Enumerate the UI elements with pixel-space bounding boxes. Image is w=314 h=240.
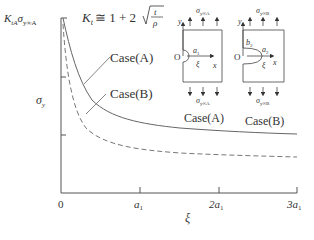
- svg-text:y: y: [237, 17, 242, 26]
- case-b-label: Case(B): [110, 86, 153, 101]
- y-axis-label: σy: [36, 93, 46, 109]
- svg-text:y: y: [177, 17, 182, 26]
- inset-case-b: σy∞B y O x ξ b2 a2 σy∞B: [234, 6, 284, 106]
- svg-text:x: x: [212, 61, 217, 70]
- svg-text:a1: a1: [193, 46, 200, 56]
- case-a-leader: [84, 57, 110, 84]
- case-a-label: Case(A): [110, 50, 153, 65]
- svg-text:ρ: ρ: [152, 18, 158, 28]
- x-tick-label-3a1: 3a1: [286, 198, 302, 212]
- x-tick-label-0: 0: [58, 198, 64, 210]
- svg-text:σy∞A: σy∞A: [196, 96, 210, 106]
- svg-text:σy∞B: σy∞B: [256, 6, 270, 16]
- svg-text:ξ: ξ: [262, 61, 266, 70]
- inset-case-a: σy∞A y O x ξ a1 σy∞A: [174, 6, 222, 106]
- stress-distribution-diagram: Case(A) Case(B) KtAσy∞A Kt≅ 1 + 2 t ρ σy…: [0, 0, 314, 240]
- x-axis-label: ξ: [185, 211, 191, 225]
- svg-text:x: x: [272, 58, 277, 67]
- svg-text:O: O: [234, 52, 241, 62]
- x-tick-label-2a1: 2a1: [209, 198, 224, 212]
- case-b-curve: [63, 24, 297, 157]
- inset-a-caption: Case(A): [184, 111, 224, 125]
- svg-text:Kt≅ 1 + 2: Kt≅ 1 + 2: [81, 10, 136, 27]
- svg-text:O: O: [174, 52, 181, 62]
- svg-text:σy∞B: σy∞B: [256, 96, 270, 106]
- svg-text:ξ: ξ: [196, 60, 200, 69]
- case-b-leader: [86, 94, 106, 114]
- kt-formula: Kt≅ 1 + 2 t ρ: [81, 6, 164, 28]
- svg-text:a2: a2: [262, 45, 269, 55]
- svg-text:b2: b2: [246, 38, 253, 48]
- inset-b-caption: Case(B): [245, 114, 284, 128]
- svg-text:t: t: [154, 7, 157, 17]
- y-top-label: KtAσy∞A: [3, 12, 37, 27]
- svg-text:σy∞A: σy∞A: [196, 6, 210, 16]
- x-tick-label-a1: a1: [134, 198, 144, 212]
